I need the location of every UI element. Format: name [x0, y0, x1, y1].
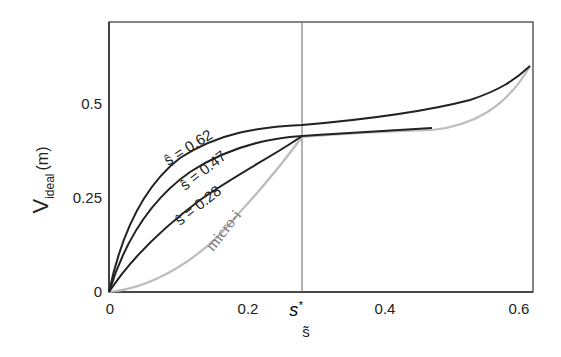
- x-tick-0.6: 0.6: [509, 300, 530, 317]
- chart: 0 0.2 0.4 0.6 0 0.25 0.5 s* s̃ Videal(m)…: [0, 0, 561, 357]
- series-s047: [109, 128, 432, 292]
- y-tick-0.25: 0.25: [73, 189, 102, 206]
- y-axis-label: Videal(m): [28, 146, 57, 213]
- y-tick-0.5: 0.5: [81, 95, 102, 112]
- series-s062: [109, 66, 530, 292]
- svg-text:Videal(m): Videal(m): [28, 146, 57, 213]
- x-tick-0.4: 0.4: [375, 300, 396, 317]
- s-star-label: s*: [289, 299, 303, 320]
- x-tick-0.2: 0.2: [238, 300, 259, 317]
- x-tick-0: 0: [106, 300, 114, 317]
- annotation-micro-i: micro-i: [202, 206, 245, 254]
- annotation-s028: ŝ = 0.28: [171, 182, 224, 229]
- x-axis-label: s̃: [302, 323, 310, 340]
- y-tick-0: 0: [94, 283, 102, 300]
